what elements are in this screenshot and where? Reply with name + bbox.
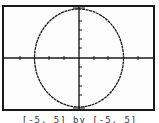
graph-plot <box>0 0 159 123</box>
window-range-caption: [-5, 5] by [-5, 5] <box>0 115 159 123</box>
